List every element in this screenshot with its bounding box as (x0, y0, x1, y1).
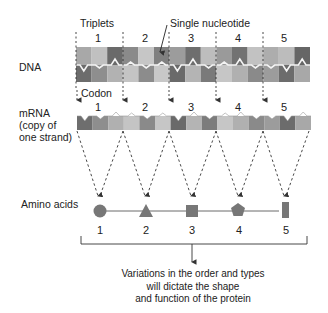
amino-circle-icon (94, 205, 107, 218)
caption: Variations in the order and types will d… (93, 268, 293, 306)
diagram-graphics (0, 0, 328, 313)
dna-strand (76, 47, 310, 82)
caption-line-3: and function of the protein (93, 293, 293, 306)
amino-acid-chain (94, 202, 290, 218)
codon-arrows (77, 90, 263, 100)
codon-to-amino-connectors (77, 131, 309, 196)
amino-square-icon (186, 205, 198, 217)
amino-rectangle-icon (282, 202, 289, 218)
grouping-bracket (81, 236, 307, 244)
caption-line-1: Variations in the order and types (93, 268, 293, 281)
caption-line-2: will dictate the shape (93, 281, 293, 294)
amino-pentagon-icon (231, 203, 245, 216)
amino-triangle-icon (139, 204, 153, 217)
mrna-strand (77, 112, 311, 130)
